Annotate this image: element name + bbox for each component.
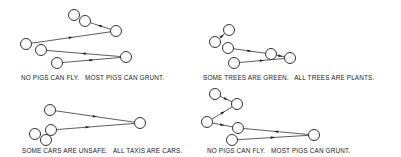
panel-trees (210, 25, 296, 69)
node-circle (223, 43, 234, 54)
edge-line (56, 123, 134, 129)
node-circle (46, 125, 57, 136)
node-circle (202, 117, 213, 128)
node-circle (227, 135, 238, 146)
arrowhead-icon (97, 25, 102, 28)
caption-panel-2: SOME TREES ARE GREEN. ALL TREES ARE PLAN… (203, 74, 374, 81)
panel-cars (30, 105, 146, 146)
panel-no-pigs-1 (21, 10, 132, 69)
caption-panel-1: NO PIGS CAN FLY. MOST PIGS CAN GRUNT. (21, 74, 164, 81)
node-circle (285, 53, 296, 64)
node-circle (121, 52, 132, 63)
node-circle (80, 16, 91, 27)
node-circle (111, 26, 122, 37)
node-circle (224, 25, 235, 36)
node-circle (21, 39, 32, 50)
node-circle (266, 49, 277, 60)
caption-panel-4: NO PIGS CAN FLY. MOST PIGS CAN GRUNT. (207, 147, 350, 154)
node-circle (229, 58, 240, 69)
node-circle (69, 10, 80, 21)
node-circle (210, 89, 221, 100)
node-circle (36, 45, 47, 56)
panel-no-pigs-2 (202, 89, 320, 146)
node-circle (41, 135, 52, 146)
node-circle (45, 105, 56, 116)
node-circle (232, 99, 243, 110)
arrowhead-icon (278, 54, 283, 57)
caption-panel-3: SOME CARS ARE UNSAFE. ALL TAXIS ARE CARS… (22, 147, 182, 154)
arrowhead-icon (220, 111, 224, 114)
node-circle (309, 130, 320, 141)
node-circle (135, 118, 146, 129)
node-circle (52, 58, 63, 69)
arrowhead-icon (220, 123, 225, 126)
arrowhead-icon (223, 97, 228, 100)
node-circle (210, 37, 221, 48)
node-circle (233, 123, 244, 134)
node-circle (30, 129, 41, 140)
